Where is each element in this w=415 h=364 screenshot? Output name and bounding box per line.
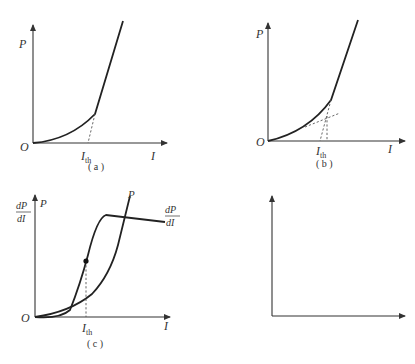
inflection-point-marker: [83, 258, 88, 263]
origin-label: O: [256, 135, 265, 149]
panel-caption: ( c ): [87, 338, 103, 350]
panel-a: P O Ith I ( a ): [18, 21, 167, 173]
y-axis-label: P: [39, 197, 47, 209]
p-curve-label: P: [127, 188, 135, 200]
panel-caption: ( a ): [88, 161, 104, 173]
panel-caption: ( b ): [316, 158, 333, 170]
origin-label: O: [21, 311, 30, 325]
x-axis-label: I: [387, 142, 393, 156]
y-axis-derivative-label-den: dI: [17, 213, 26, 224]
x-axis-label: I: [150, 149, 156, 163]
threshold-label: Ith: [81, 321, 92, 337]
p-curve: [35, 196, 130, 317]
x-axis-label: I: [163, 319, 169, 333]
panel-d: [272, 196, 405, 316]
y-axis-label: P: [255, 27, 264, 41]
dp-di-curve: [35, 215, 165, 317]
origin-label: O: [20, 140, 29, 154]
y-axis-label: P: [18, 37, 27, 51]
y-axis-derivative-label-num: dP: [16, 200, 27, 211]
panel-b: P O Ith I ( b ): [255, 20, 405, 170]
dp-di-curve-label-den: dI: [166, 217, 175, 228]
low-slope-fit-line: [305, 113, 340, 127]
p-i-curve: [33, 21, 123, 143]
panel-c: dP dI P P dP dI O Ith I ( c ): [16, 188, 180, 350]
p-i-curve: [268, 20, 358, 141]
dp-di-curve-label-num: dP: [165, 204, 176, 215]
threshold-methods-figure: P O Ith I ( a ) P O Ith I ( b ) dP dI P …: [0, 0, 415, 364]
